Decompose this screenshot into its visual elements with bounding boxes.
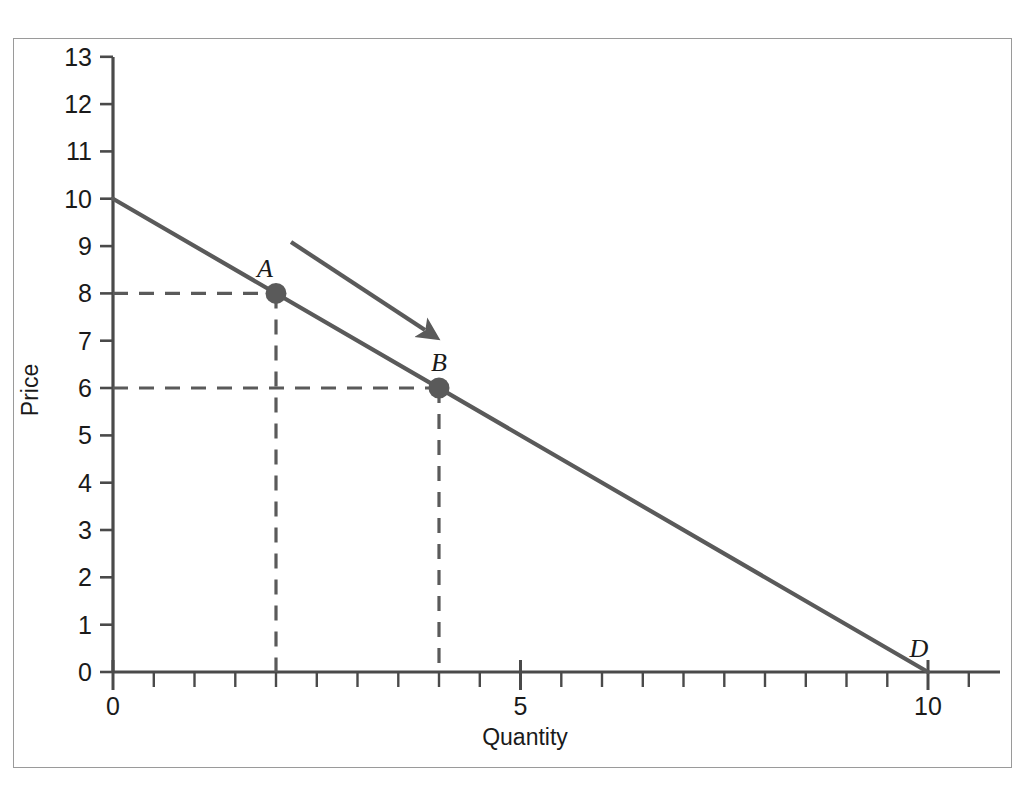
- y-tick-label-2: 2: [78, 563, 92, 591]
- y-tick-label-8: 8: [78, 279, 92, 307]
- x-tick-label-5: 5: [514, 692, 528, 720]
- x-tick-label-0: 0: [106, 692, 120, 720]
- demand-curve-line: [113, 199, 928, 672]
- x-axis-tick-labels: 0 5 10: [106, 692, 942, 720]
- y-tick-label-11: 11: [66, 137, 92, 165]
- y-tick-label-5: 5: [78, 421, 92, 449]
- point-label-a: A: [255, 254, 273, 283]
- axes: [113, 57, 1000, 672]
- x-tick-label-10: 10: [914, 692, 942, 720]
- y-tick-label-6: 6: [78, 374, 92, 402]
- x-axis-title: Quantity: [482, 724, 568, 750]
- y-axis-title: Price: [17, 364, 43, 416]
- data-point-a: [266, 283, 287, 304]
- y-tick-label-3: 3: [78, 516, 92, 544]
- point-label-b: B: [431, 348, 447, 377]
- y-axis-ticks: [100, 57, 113, 672]
- y-tick-label-10: 10: [64, 185, 92, 213]
- x-axis-minor-ticks: [154, 672, 969, 687]
- data-point-b: [429, 378, 450, 399]
- y-tick-label-7: 7: [78, 327, 92, 355]
- guide-lines-point-a: [113, 293, 276, 672]
- demand-curve-label: D: [909, 634, 929, 663]
- y-axis-tick-labels: 0 1 2 3 4 5 6 7 8 9 10 11 12 13: [64, 43, 92, 686]
- movement-arrow: [291, 242, 425, 330]
- y-tick-label-9: 9: [78, 232, 92, 260]
- y-tick-label-4: 4: [78, 469, 92, 497]
- demand-curve-chart: 0 1 2 3 4 5 6 7 8 9 10 11 12 13: [0, 0, 1030, 794]
- y-tick-label-12: 12: [64, 90, 92, 118]
- y-tick-label-1: 1: [78, 611, 92, 639]
- figure-root: 0 1 2 3 4 5 6 7 8 9 10 11 12 13: [0, 0, 1030, 794]
- y-tick-label-13: 13: [64, 43, 92, 71]
- y-tick-label-0: 0: [78, 658, 92, 686]
